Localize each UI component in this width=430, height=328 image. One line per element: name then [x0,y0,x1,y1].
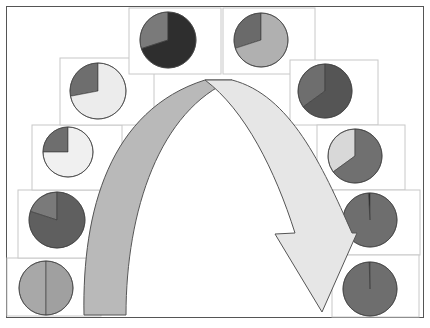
diagram-stage [0,0,430,328]
figure-caption [0,318,430,328]
pie-panel-right-3 [317,125,405,190]
pie-panel-right-4 [290,60,378,125]
arch-diagram [0,0,430,328]
pie-panel-right-1-bottom [332,255,419,317]
pie-panel-top-left [129,8,221,74]
